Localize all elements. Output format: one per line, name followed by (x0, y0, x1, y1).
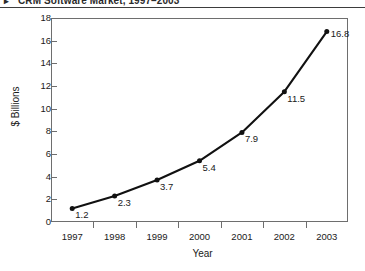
x-axis-tick-mark (221, 222, 222, 228)
data-point-marker (324, 29, 329, 34)
data-series-line (51, 18, 348, 222)
x-axis-tick-mark (306, 222, 307, 228)
y-axis-tick-label: 18 (25, 13, 51, 23)
y-axis-tick-label: 14 (25, 58, 51, 68)
y-axis-tick-label: 12 (25, 81, 51, 91)
y-axis-tick-label: 10 (25, 104, 51, 114)
data-point-marker (70, 206, 75, 211)
x-axis-title: Year (0, 248, 365, 259)
data-point-label: 16.8 (331, 29, 350, 39)
x-axis-tick-mark (93, 222, 94, 228)
y-axis-tick-labels: 181614121086420 (18, 0, 51, 271)
data-point-label: 1.2 (75, 210, 88, 220)
x-axis-tick-label: 2003 (302, 231, 352, 242)
y-axis-title: $ Billions (10, 60, 21, 154)
data-point-label: 2.3 (118, 198, 131, 208)
title-divider (0, 7, 365, 8)
y-axis-tick-label: 16 (25, 36, 51, 46)
data-point-label: 7.9 (245, 134, 258, 144)
chart-figure: ▸ CRM Software Market, 1997–2003 1816141… (0, 0, 365, 271)
data-point-marker (239, 130, 244, 135)
x-axis-tick-mark (263, 222, 264, 228)
x-axis-tick-mark (178, 222, 179, 228)
y-axis-tick-label: 2 (25, 194, 51, 204)
data-point-label: 5.4 (203, 163, 216, 173)
data-point-marker (197, 158, 202, 163)
x-axis-tick-mark (136, 222, 137, 228)
y-axis-tick-label: 4 (25, 172, 51, 182)
y-axis-tick-label: 6 (25, 149, 51, 159)
title-bullet-icon: ▸ (4, 0, 9, 7)
data-point-label: 3.7 (160, 182, 173, 192)
data-point-marker (112, 193, 117, 198)
data-point-marker (282, 89, 287, 94)
y-axis-tick-label: 0 (25, 217, 51, 227)
data-point-label: 11.5 (287, 94, 305, 104)
y-axis-tick-label: 8 (25, 126, 51, 136)
data-point-marker (155, 178, 160, 183)
